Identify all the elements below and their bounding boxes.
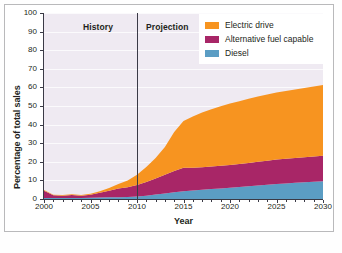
x-tick-label: 2030 <box>303 203 342 211</box>
x-tick-minor <box>211 200 212 202</box>
x-tick-minor <box>286 200 287 202</box>
x-tick-minor <box>295 200 296 202</box>
x-tick-mark <box>277 200 278 203</box>
projection-region-label: Projection <box>146 22 189 32</box>
x-tick-label: 2010 <box>117 203 157 211</box>
y-tick-mark <box>40 143 44 144</box>
y-axis-label: Percentage of total sales <box>12 85 22 189</box>
legend-swatch-icon <box>205 36 219 43</box>
x-tick-minor <box>221 200 222 202</box>
x-tick-minor <box>53 200 54 202</box>
y-tick-mark <box>40 180 44 181</box>
x-tick-mark <box>323 200 324 203</box>
x-tick-minor <box>100 200 101 202</box>
x-tick-label: 2025 <box>257 203 297 211</box>
y-tick-label: 70 <box>13 65 37 73</box>
y-tick-mark <box>40 162 44 163</box>
x-tick-minor <box>156 200 157 202</box>
x-tick-minor <box>267 200 268 202</box>
y-tick-mark <box>40 87 44 88</box>
x-tick-minor <box>165 200 166 202</box>
y-tick-mark <box>40 32 44 33</box>
y-tick-mark <box>40 125 44 126</box>
x-tick-mark <box>184 200 185 203</box>
x-tick-minor <box>63 200 64 202</box>
x-tick-label: 2005 <box>71 203 111 211</box>
chart-legend: Electric driveAlternative fuel capableDi… <box>199 14 333 64</box>
x-tick-label: 2020 <box>210 203 250 211</box>
x-tick-minor <box>109 200 110 202</box>
x-tick-minor <box>146 200 147 202</box>
x-tick-minor <box>304 200 305 202</box>
x-tick-minor <box>72 200 73 202</box>
legend-swatch-icon <box>205 22 219 29</box>
x-tick-mark <box>91 200 92 203</box>
y-tick-label: 90 <box>13 28 37 36</box>
x-tick-minor <box>128 200 129 202</box>
x-tick-label: 2000 <box>24 203 64 211</box>
y-tick-mark <box>40 50 44 51</box>
y-tick-label: 0 <box>13 195 37 203</box>
legend-label: Electric drive <box>225 21 274 30</box>
x-axis-label: Year <box>44 216 323 226</box>
x-tick-minor <box>258 200 259 202</box>
legend-item: Diesel <box>205 48 329 59</box>
legend-label: Diesel <box>225 49 249 58</box>
legend-item: Electric drive <box>205 20 329 31</box>
history-projection-divider <box>137 13 138 199</box>
y-tick-label: 100 <box>13 9 37 17</box>
x-tick-minor <box>81 200 82 202</box>
legend-label: Alternative fuel capable <box>225 35 313 44</box>
x-tick-minor <box>174 200 175 202</box>
x-tick-label: 2015 <box>164 203 204 211</box>
x-tick-minor <box>249 200 250 202</box>
x-tick-mark <box>137 200 138 203</box>
legend-swatch-icon <box>205 50 219 57</box>
x-tick-minor <box>118 200 119 202</box>
x-tick-mark <box>230 200 231 203</box>
legend-item: Alternative fuel capable <box>205 34 329 45</box>
chart-figure: History Projection 010203040506070809010… <box>0 0 342 253</box>
history-region-label: History <box>83 22 113 32</box>
x-tick-minor <box>193 200 194 202</box>
y-tick-mark <box>40 106 44 107</box>
x-tick-minor <box>314 200 315 202</box>
x-tick-mark <box>44 200 45 203</box>
x-tick-minor <box>202 200 203 202</box>
y-tick-mark <box>40 69 44 70</box>
x-tick-minor <box>239 200 240 202</box>
y-tick-mark <box>40 13 44 14</box>
y-tick-label: 80 <box>13 46 37 54</box>
